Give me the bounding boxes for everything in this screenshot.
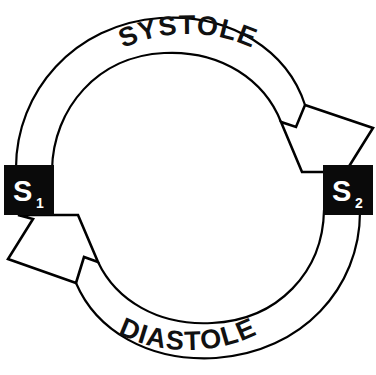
diastole-arrowhead <box>8 215 98 283</box>
node-s1[interactable]: S 1 <box>4 165 54 215</box>
systole-label-text: SYSTOLE <box>114 10 262 54</box>
diastole-label-textpath: DIASTOLE <box>115 312 261 356</box>
cycle-svg-canvas: S 1 S 2 SYSTOLE DIASTOLE <box>0 0 376 375</box>
arc-systole <box>16 18 373 172</box>
node-s1-subscript: 1 <box>36 195 44 211</box>
systole-arrowhead <box>281 105 373 172</box>
systole-inner-edge <box>52 53 281 170</box>
diastole-inner-edge <box>98 210 324 323</box>
node-s2-label: S <box>332 175 351 207</box>
node-s2-subscript: 2 <box>355 195 363 211</box>
systole-label-textpath: SYSTOLE <box>114 10 262 54</box>
diastole-label-text: DIASTOLE <box>115 312 261 356</box>
node-s1-label: S <box>13 175 32 207</box>
cardiac-cycle-diagram: S 1 S 2 SYSTOLE DIASTOLE <box>0 0 376 375</box>
node-s2[interactable]: S 2 <box>323 165 373 215</box>
